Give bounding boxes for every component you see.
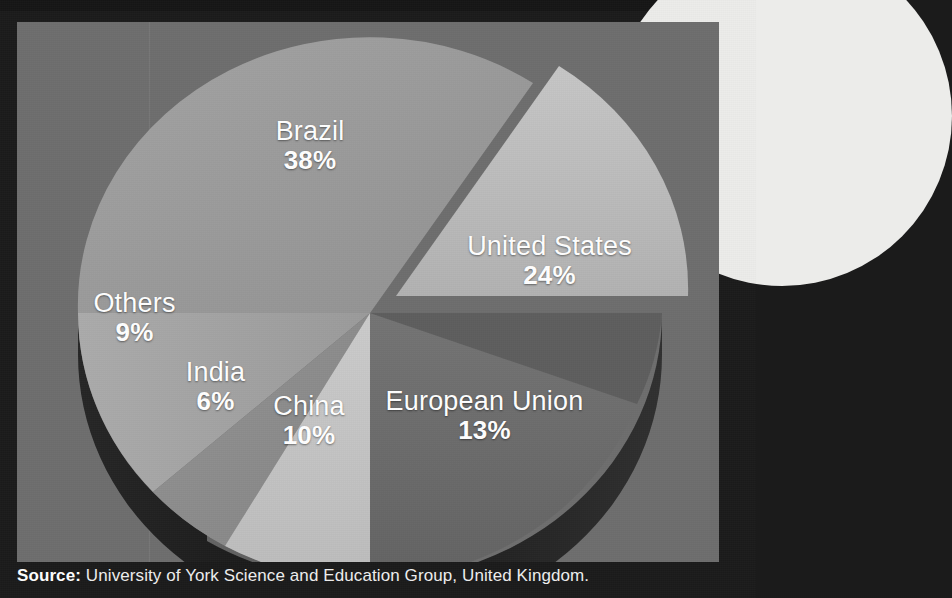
source-label: Source: (17, 566, 81, 585)
slice-value-india: 6% (153, 388, 278, 415)
page-top-strip (0, 0, 756, 11)
slice-label-brazil: Brazil 38% (205, 118, 415, 173)
slice-name-others: Others (62, 290, 207, 318)
slice-label-others: Others 9% (62, 290, 207, 345)
slice-value-others: 9% (62, 319, 207, 346)
slice-value-united-states: 24% (437, 262, 662, 289)
slice-label-india: India 6% (153, 359, 278, 414)
slice-name-united-states: United States (437, 233, 662, 261)
slice-value-brazil: 38% (205, 147, 415, 174)
source-text: University of York Science and Education… (81, 566, 589, 585)
slice-name-european-union: European Union (372, 388, 597, 416)
source-note: Source: University of York Science and E… (17, 566, 756, 594)
slice-label-united-states: United States 24% (437, 233, 662, 288)
slice-value-china: 10% (239, 422, 379, 449)
slice-label-european-union: European Union 13% (372, 388, 597, 443)
slice-value-european-union: 13% (372, 417, 597, 444)
slice-name-brazil: Brazil (205, 118, 415, 146)
slice-name-india: India (153, 359, 278, 387)
